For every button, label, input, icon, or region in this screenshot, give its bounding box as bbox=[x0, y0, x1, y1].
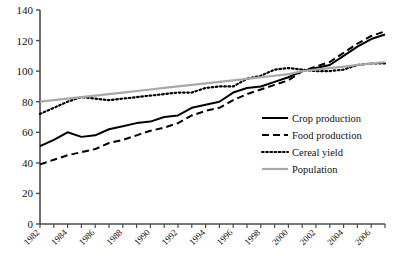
y-tick-label: 60 bbox=[22, 126, 34, 138]
y-tick-label: 40 bbox=[22, 157, 34, 169]
legend-label-1: Food production bbox=[292, 130, 362, 141]
y-tick-label: 20 bbox=[22, 187, 34, 199]
y-tick-label: 80 bbox=[22, 96, 34, 108]
line-chart: 020406080100120140 198219841986198819901… bbox=[0, 0, 400, 263]
legend-label-0: Crop production bbox=[292, 113, 362, 124]
y-tick-label: 100 bbox=[17, 65, 34, 77]
y-tick-label: 140 bbox=[17, 4, 34, 16]
chart-container: 020406080100120140 198219841986198819901… bbox=[0, 0, 400, 263]
legend-label-2: Cereal yield bbox=[292, 147, 344, 158]
y-tick-label: 120 bbox=[17, 35, 34, 47]
legend-label-3: Population bbox=[292, 164, 338, 175]
